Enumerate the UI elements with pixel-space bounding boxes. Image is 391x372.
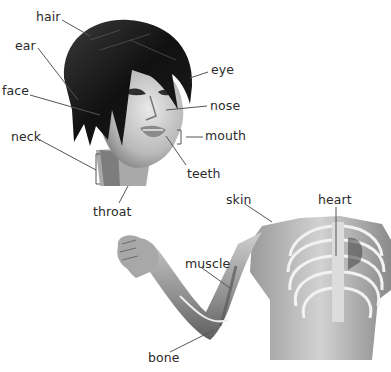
illustration <box>0 0 391 372</box>
label-hair: hair <box>36 11 61 24</box>
label-teeth: teeth <box>187 168 221 181</box>
label-bone: bone <box>148 352 180 365</box>
label-ear: ear <box>15 40 36 53</box>
label-nose: nose <box>210 100 240 113</box>
label-heart: heart <box>318 194 352 207</box>
label-muscle: muscle <box>185 258 230 271</box>
label-eye: eye <box>211 64 234 77</box>
head-illustration <box>64 20 192 186</box>
anatomy-diagram: hair ear face eye nose mouth neck teeth … <box>0 0 391 372</box>
label-mouth: mouth <box>205 130 246 143</box>
label-throat: throat <box>93 206 132 219</box>
label-face: face <box>2 85 29 98</box>
label-neck: neck <box>11 131 41 144</box>
label-skin: skin <box>226 194 252 207</box>
torso-illustration <box>117 216 391 360</box>
